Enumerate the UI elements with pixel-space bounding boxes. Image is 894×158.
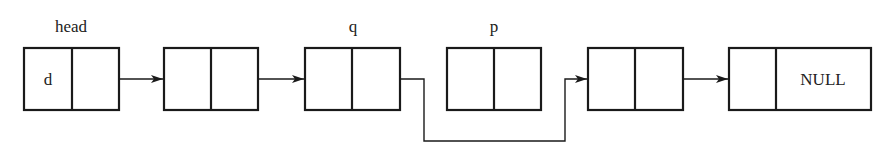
list-node-q [305,48,400,110]
linked-list-diagram: head q p d NULL [0,0,894,158]
p-pointer-label: p [490,17,499,36]
list-node-head: d [24,48,119,110]
node-data-field: d [44,70,53,89]
list-node-tail: NULL [729,48,871,110]
list-node-2 [164,48,258,110]
q-pointer-label: q [349,17,358,36]
head-pointer-label: head [55,17,88,36]
null-pointer-text: NULL [800,70,845,89]
list-node-5 [588,48,683,110]
list-node-p [447,48,541,110]
